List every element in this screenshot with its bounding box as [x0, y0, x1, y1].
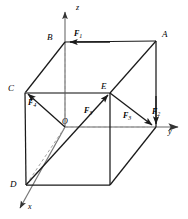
edge-bottomfront-frontcorner	[110, 127, 156, 185]
force-label-f4: F4	[28, 99, 36, 108]
force-label-f3: F3	[84, 107, 92, 116]
force-label-f4-sub: 4	[33, 102, 36, 108]
vertex-label-e: E	[101, 82, 107, 91]
force-label-f1: F1	[74, 30, 82, 39]
edge-c-d	[25, 93, 26, 185]
force-vector-f3	[26, 95, 108, 185]
force-label-f3b: F3	[123, 112, 131, 121]
force-diagram-figure: A B C D E O x y z F1 F2 F3 F3 F4	[0, 0, 188, 219]
edge-e-a	[110, 41, 156, 93]
vertex-label-d: D	[10, 180, 17, 189]
edge-c-b	[25, 42, 65, 93]
dashed-edge-o-d	[26, 127, 65, 185]
force-label-f2: F2	[152, 108, 160, 117]
force-label-f3-sub: 3	[89, 110, 92, 116]
axis-label-x: x	[28, 203, 32, 211]
vertex-label-b: B	[47, 33, 53, 42]
vertex-label-o: O	[62, 118, 68, 126]
force-label-f1-sub: 1	[79, 33, 82, 39]
force-label-f3b-sub: 3	[128, 115, 131, 121]
axis-label-y: y	[168, 128, 172, 136]
axis-label-z: z	[76, 4, 79, 12]
vertex-label-c: C	[8, 84, 14, 93]
vertex-label-a: A	[162, 30, 168, 39]
force-label-f2-sub: 2	[157, 111, 160, 117]
